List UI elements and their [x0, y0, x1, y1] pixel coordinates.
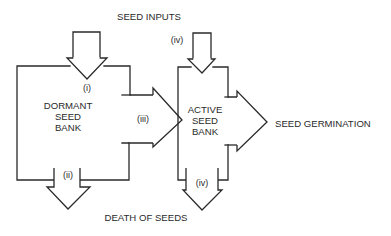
- dormant-label-line2: SEED: [55, 111, 81, 122]
- flow-marker-ii: (ii): [63, 170, 73, 180]
- active-label-line3: BANK: [192, 126, 219, 137]
- dormant-label-line1: DORMANT: [44, 100, 93, 111]
- seed-bank-flow-diagram: SEED INPUTS (i) DORMANT SEED BANK (iii) …: [0, 0, 391, 236]
- flow-marker-iv-bottom: (iv): [196, 178, 209, 188]
- arrow-i-seed-inputs-to-dormant: [67, 32, 107, 79]
- death-of-seeds-label: DEATH OF SEEDS: [105, 212, 188, 223]
- flow-marker-iii: (iii): [137, 114, 149, 124]
- seed-germination-label: SEED GERMINATION: [275, 118, 371, 129]
- dormant-label-line3: BANK: [55, 122, 82, 133]
- arrow-iv-active-to-death: [183, 168, 222, 210]
- active-label-line2: SEED: [192, 115, 218, 126]
- arrow-iv-seed-inputs-to-active: [188, 33, 215, 73]
- active-label-line1: ACTIVE: [188, 104, 223, 115]
- seed-inputs-label: SEED INPUTS: [117, 11, 181, 22]
- flow-marker-iv-top: (iv): [171, 35, 184, 45]
- flow-marker-i: (i): [83, 83, 91, 93]
- arrow-active-to-germination: [237, 91, 267, 151]
